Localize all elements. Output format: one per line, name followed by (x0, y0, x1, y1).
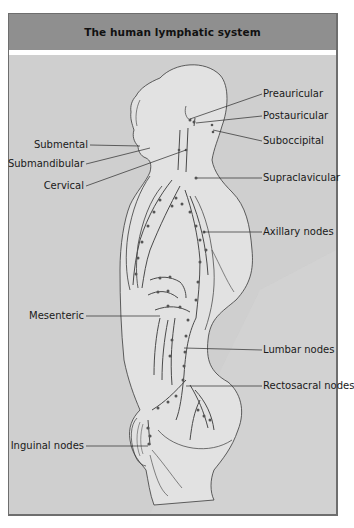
label-preauricular: Preauricular (263, 88, 323, 100)
label-inguinal-nodes: Inguinal nodes (11, 440, 84, 452)
label-lumbar-nodes: Lumbar nodes (263, 344, 334, 356)
label-postauricular: Postauricular (263, 110, 328, 122)
label-supraclavicular: Supraclavicular (263, 172, 340, 184)
label-submandibular: Submandibular (8, 158, 84, 170)
label-rectosacral-nodes: Rectosacral nodes (263, 380, 354, 392)
label-mesenteric: Mesenteric (29, 310, 84, 322)
label-submental: Submental (34, 139, 88, 151)
label-axillary-nodes: Axillary nodes (263, 226, 334, 238)
label-suboccipital: Suboccipital (263, 135, 324, 147)
label-cervical: Cervical (44, 180, 84, 192)
